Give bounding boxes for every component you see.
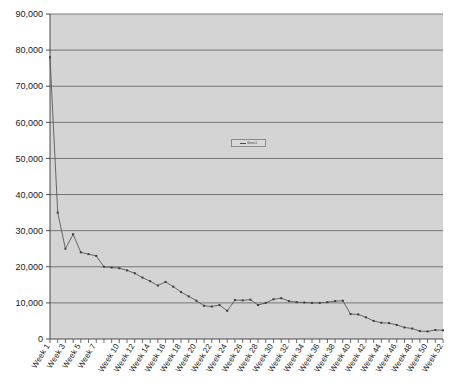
legend-label: Series1: [247, 141, 257, 145]
x-axis: [50, 339, 443, 343]
y-tick-label: 70,000: [15, 81, 43, 91]
y-axis: [46, 14, 50, 339]
y-tick-label: 40,000: [15, 190, 43, 200]
y-tick-label: 50,000: [15, 154, 43, 164]
y-axis-tick-labels: 010,00020,00030,00040,00050,00060,00070,…: [15, 9, 43, 344]
x-axis-tick-labels: Week 1Week 3Week 5Week 7Week 10Week 12We…: [30, 342, 445, 374]
y-tick-label: 80,000: [15, 45, 43, 55]
legend-color-swatch: [240, 143, 246, 144]
plot-background: [50, 14, 443, 339]
line-chart: 010,00020,00030,00040,00050,00060,00070,…: [0, 0, 458, 385]
y-tick-label: 20,000: [15, 262, 43, 272]
y-tick-label: 30,000: [15, 226, 43, 236]
y-tick-label: 0: [38, 334, 43, 344]
y-tick-label: 90,000: [15, 9, 43, 19]
chart-canvas: 010,00020,00030,00040,00050,00060,00070,…: [0, 0, 458, 385]
chart-legend: Series1: [231, 139, 266, 147]
y-tick-label: 10,000: [15, 298, 43, 308]
y-tick-label: 60,000: [15, 118, 43, 128]
